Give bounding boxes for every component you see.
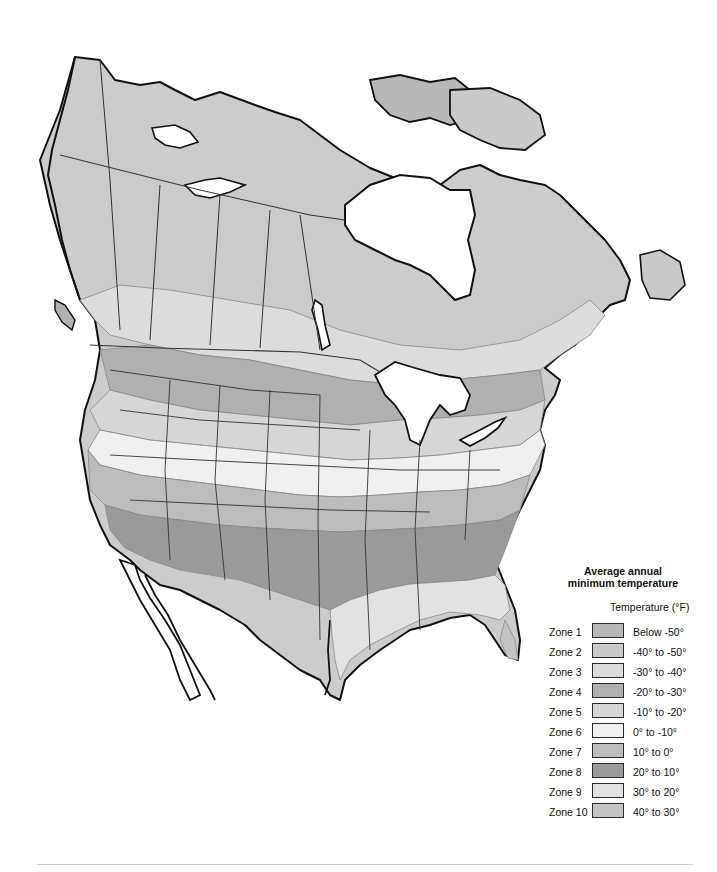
- zone-range: 20° to 10°: [633, 766, 679, 778]
- zone-swatch: [592, 683, 624, 698]
- zone-swatch: [592, 723, 624, 738]
- zone-label: Zone 3: [549, 666, 582, 678]
- legend-row-zone-5: Zone 5 -10° to -20°: [540, 703, 717, 723]
- legend-row-zone-1: Zone 1 Below -50°: [540, 623, 717, 643]
- bottom-divider: [37, 864, 693, 865]
- zone-range: -10° to -20°: [633, 706, 686, 718]
- zone-label: Zone 2: [549, 646, 582, 658]
- legend-title-line2: minimum temperature: [548, 577, 698, 589]
- legend-row-zone-7: Zone 7 10° to 0°: [540, 743, 717, 763]
- zone-range: -40° to -50°: [633, 646, 686, 658]
- zone-label: Zone 7: [549, 746, 582, 758]
- legend-row-zone-8: Zone 8 20° to 10°: [540, 763, 717, 783]
- zone-swatch: [592, 703, 624, 718]
- zone-range: 30° to 20°: [633, 786, 679, 798]
- zone-swatch: [592, 763, 624, 778]
- legend-row-zone-6: Zone 6 0° to -10°: [540, 723, 717, 743]
- zone-label: Zone 1: [549, 626, 582, 638]
- legend-row-zone-10: Zone 10 40° to 30°: [540, 803, 717, 823]
- legend-row-zone-3: Zone 3 -30° to -40°: [540, 663, 717, 683]
- legend-title-line1: Average annual: [548, 565, 698, 577]
- zone-range: -20° to -30°: [633, 686, 686, 698]
- zone-swatch: [592, 663, 624, 678]
- legend-unit-label: Temperature (°F): [610, 601, 717, 613]
- zone-swatch: [592, 783, 624, 798]
- zone-range: 10° to 0°: [633, 746, 674, 758]
- zone-label: Zone 5: [549, 706, 582, 718]
- legend: Average annual minimum temperature Tempe…: [540, 565, 717, 823]
- newfoundland: [640, 250, 685, 300]
- legend-rows: Zone 1 Below -50° Zone 2 -40° to -50° Zo…: [540, 623, 717, 823]
- legend-row-zone-2: Zone 2 -40° to -50°: [540, 643, 717, 663]
- baffin-island: [450, 88, 545, 150]
- legend-row-zone-4: Zone 4 -20° to -30°: [540, 683, 717, 703]
- zone-label: Zone 4: [549, 686, 582, 698]
- zone-range: -30° to -40°: [633, 666, 686, 678]
- legend-row-zone-9: Zone 9 30° to 20°: [540, 783, 717, 803]
- zone-swatch: [592, 643, 624, 658]
- vancouver-island: [55, 300, 75, 330]
- zone-swatch: [592, 743, 624, 758]
- zone-label: Zone 10: [549, 806, 588, 818]
- zone-label: Zone 8: [549, 766, 582, 778]
- legend-title: Average annual minimum temperature: [548, 565, 698, 589]
- zone-label: Zone 9: [549, 786, 582, 798]
- zone-swatch: [592, 803, 624, 818]
- zone-range: 40° to 30°: [633, 806, 679, 818]
- zone-label: Zone 6: [549, 726, 582, 738]
- zone-swatch: [592, 623, 624, 638]
- zone-range: Below -50°: [633, 626, 684, 638]
- zone-range: 0° to -10°: [633, 726, 677, 738]
